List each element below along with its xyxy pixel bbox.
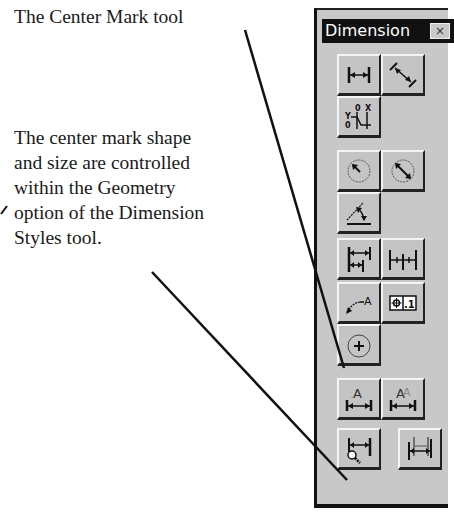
dimension-text-edit-icon: A A <box>387 384 419 414</box>
close-icon: × <box>435 24 445 38</box>
caption-line: The center mark shape <box>14 125 274 150</box>
continue-dimension-button[interactable] <box>381 238 425 280</box>
caption-line: option of the Dimension <box>14 200 274 225</box>
svg-text:0: 0 <box>345 121 351 130</box>
diameter-dimension-icon <box>387 156 419 186</box>
dimension-toolbar: Dimension × 0 X Y 0 <box>314 8 448 508</box>
tolerance-icon: .1 <box>387 288 419 318</box>
aligned-dimension-button[interactable] <box>381 54 425 96</box>
svg-text:Y: Y <box>344 112 351 121</box>
linear-dimension-button[interactable] <box>337 54 381 96</box>
toolbar-title: Dimension <box>325 21 410 40</box>
dimension-update-button[interactable] <box>398 428 442 470</box>
tolerance-button[interactable]: .1 <box>381 282 425 324</box>
leader-icon: A <box>343 288 375 318</box>
tick-mark <box>1 206 7 214</box>
angular-dimension-icon <box>343 198 375 228</box>
geometry-option-caption: The center mark shape and size are contr… <box>14 125 274 250</box>
svg-text:A: A <box>353 386 362 401</box>
baseline-dimension-icon <box>343 244 375 274</box>
dimension-edit-button[interactable]: A <box>337 378 381 420</box>
leader-button[interactable]: A <box>337 282 381 324</box>
tolerance-value: .1 <box>404 299 415 310</box>
dimension-style-icon <box>343 434 375 464</box>
aligned-dimension-icon <box>387 60 419 90</box>
dimension-text-edit-button[interactable]: A A <box>381 378 425 420</box>
diameter-dimension-button[interactable] <box>381 150 425 192</box>
dimension-edit-icon: A <box>343 384 375 414</box>
ordinate-dimension-icon: 0 X Y 0 <box>343 102 375 132</box>
center-mark-button[interactable] <box>337 324 381 366</box>
svg-text:X: X <box>365 104 372 113</box>
close-button[interactable]: × <box>430 23 450 39</box>
continue-dimension-icon <box>387 244 419 274</box>
angular-dimension-button[interactable] <box>337 192 381 234</box>
radius-dimension-button[interactable] <box>337 150 381 192</box>
center-mark-tool-caption: The Center Mark tool <box>14 4 184 29</box>
svg-text:A: A <box>403 386 411 399</box>
caption-line: and size are controlled <box>14 150 274 175</box>
caption-line: within the Geometry <box>14 175 274 200</box>
svg-text:A: A <box>364 295 372 308</box>
baseline-dimension-button[interactable] <box>337 238 381 280</box>
dimension-update-icon <box>404 434 436 464</box>
svg-text:0: 0 <box>355 104 361 113</box>
radius-dimension-icon <box>343 156 375 186</box>
caption-line: Styles tool. <box>14 225 274 250</box>
toolbar-titlebar[interactable]: Dimension × <box>322 19 454 43</box>
linear-dimension-icon <box>343 60 375 90</box>
dimension-style-button[interactable] <box>337 428 381 470</box>
center-mark-icon <box>343 330 375 360</box>
ordinate-dimension-button[interactable]: 0 X Y 0 <box>337 96 381 138</box>
